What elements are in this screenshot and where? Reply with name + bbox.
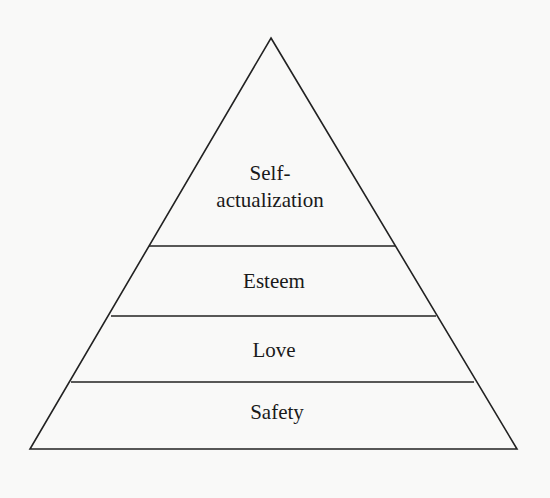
level-self-actualization: Self- actualization bbox=[216, 160, 323, 214]
level-safety: Safety bbox=[250, 399, 304, 426]
level-self-actualization-line1: Self- bbox=[216, 160, 323, 187]
level-self-actualization-line2: actualization bbox=[216, 187, 323, 214]
level-esteem: Esteem bbox=[243, 268, 305, 295]
level-love: Love bbox=[252, 337, 295, 364]
pyramid-outline bbox=[30, 38, 517, 449]
